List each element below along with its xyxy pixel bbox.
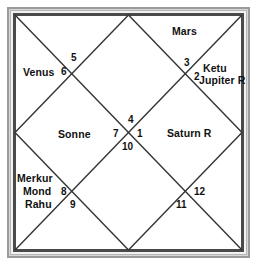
planet-merkur: Merkur	[17, 172, 53, 184]
house-number-9: 9	[70, 199, 76, 211]
house-number-10: 10	[122, 141, 133, 153]
house-number-8: 8	[61, 186, 67, 198]
planet-mond: Mond	[23, 185, 51, 197]
planet-mars: Mars	[172, 25, 197, 37]
planet-venus: Venus	[23, 66, 54, 78]
house-number-6: 6	[61, 66, 67, 78]
planet-rahu: Rahu	[25, 198, 52, 210]
house-number-11: 11	[176, 199, 187, 211]
planet-jupiter: Jupiter R	[199, 74, 245, 86]
house-number-4: 4	[128, 114, 134, 126]
house-number-7: 7	[113, 128, 119, 140]
planet-ketu: Ketu	[203, 62, 227, 74]
house-number-3: 3	[184, 57, 190, 69]
house-number-1: 1	[137, 128, 143, 140]
vedic-chart-frame: 4 Mars 3 2 Ketu Jupiter R 5 Venus 6 Sonn…	[0, 0, 257, 265]
house-number-12: 12	[194, 186, 205, 198]
planet-saturn: Saturn R	[167, 127, 212, 139]
house-number-5: 5	[71, 52, 77, 64]
chart-labels: 4 Mars 3 2 Ketu Jupiter R 5 Venus 6 Sonn…	[0, 0, 257, 265]
planet-sonne: Sonne	[58, 128, 91, 140]
